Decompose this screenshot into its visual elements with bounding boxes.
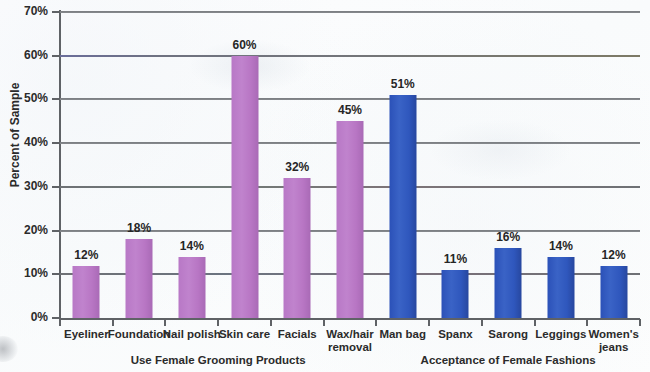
y-tick-label-10: 10% <box>4 266 48 280</box>
x-tick-mark <box>323 319 325 326</box>
bar-slot: 60% <box>218 12 271 318</box>
x-tick-mark <box>428 319 430 326</box>
bar-value-label: 12% <box>602 248 626 262</box>
bar[interactable] <box>178 257 205 318</box>
bar[interactable] <box>73 266 100 318</box>
x-tick-mark <box>586 319 588 326</box>
bar-value-label: 14% <box>180 239 204 253</box>
bar-slot: 12% <box>587 12 640 318</box>
bar-value-label: 14% <box>549 239 573 253</box>
x-tick-mark <box>534 319 536 326</box>
y-tick-mark-50 <box>52 98 60 100</box>
group-label-2: Acceptance of Female Fashions <box>376 354 640 366</box>
y-tick-label-30: 30% <box>4 179 48 193</box>
x-tick-mark <box>481 319 483 326</box>
plot-area: 12%18%14%60%32%45%51%11%16%14%12% <box>60 12 640 318</box>
y-tick-label-20: 20% <box>4 223 48 237</box>
bar[interactable] <box>442 270 469 318</box>
x-tick-mark <box>375 319 377 326</box>
bar-value-label: 18% <box>127 221 151 235</box>
group-label-1: Use Female Grooming Products <box>60 354 376 366</box>
x-tick-mark <box>164 319 166 326</box>
scan-artifact-corner-blob <box>0 336 18 362</box>
y-tick-label-70: 70% <box>4 4 48 18</box>
x-tick-mark <box>270 319 272 326</box>
y-tick-mark-40 <box>52 142 60 144</box>
x-tick-mark <box>639 319 641 326</box>
y-tick-label-40: 40% <box>4 135 48 149</box>
bar-value-label: 16% <box>496 230 520 244</box>
x-axis-line <box>59 318 640 320</box>
y-tick-label-60: 60% <box>4 48 48 62</box>
bar[interactable] <box>126 239 153 318</box>
bar-value-label: 12% <box>74 248 98 262</box>
bar-chart: Percent of Sample 0%10%20%30%40%50%60%70… <box>0 0 650 372</box>
bar-slot: 14% <box>165 12 218 318</box>
bar[interactable] <box>495 248 522 318</box>
y-tick-label-0: 0% <box>4 310 48 324</box>
y-tick-mark-60 <box>52 55 60 57</box>
bar-slot: 14% <box>535 12 588 318</box>
y-tick-mark-10 <box>52 273 60 275</box>
bar-value-label: 51% <box>391 77 415 91</box>
y-tick-mark-70 <box>52 11 60 13</box>
bar-slot: 51% <box>376 12 429 318</box>
bar-value-label: 45% <box>338 103 362 117</box>
bar[interactable] <box>284 178 311 318</box>
y-tick-mark-30 <box>52 186 60 188</box>
bar-value-label: 11% <box>444 252 467 266</box>
x-tick-mark <box>59 319 61 326</box>
bar-slot: 32% <box>271 12 324 318</box>
bar-value-label: 32% <box>285 160 309 174</box>
bar-slot: 11% <box>429 12 482 318</box>
bar-slot: 16% <box>482 12 535 318</box>
y-tick-label-50: 50% <box>4 91 48 105</box>
bar-slot: 12% <box>60 12 113 318</box>
x-tick-mark <box>112 319 114 326</box>
bar[interactable] <box>336 121 363 318</box>
bar[interactable] <box>231 56 258 318</box>
bar[interactable] <box>547 257 574 318</box>
bar-value-label: 60% <box>233 38 257 52</box>
bar-slot: 18% <box>113 12 166 318</box>
y-tick-mark-20 <box>52 230 60 232</box>
bar[interactable] <box>600 266 627 318</box>
x-tick-mark <box>217 319 219 326</box>
bar-slot: 45% <box>324 12 377 318</box>
x-category-label: Women's jeans <box>578 328 649 354</box>
bar[interactable] <box>389 95 416 318</box>
